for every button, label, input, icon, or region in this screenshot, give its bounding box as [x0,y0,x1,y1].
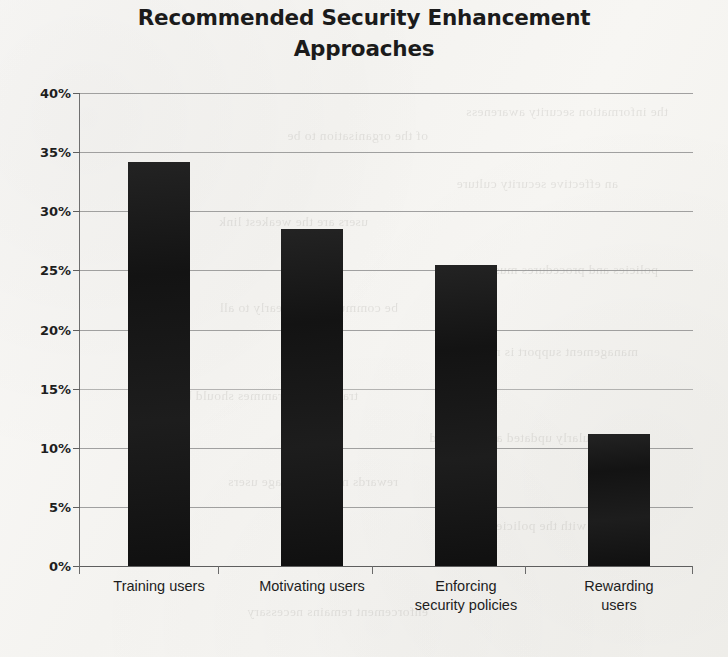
bar-enforcing-security-policies[interactable] [435,265,497,567]
bar-motivating-users[interactable] [281,229,343,566]
y-tick-label: 10% [40,440,71,455]
y-tick-mark [73,211,80,212]
y-tick-mark [73,389,80,390]
y-tick-label: 15% [40,381,71,396]
bar-chart: Recommended Security Enhancement Approac… [0,0,728,657]
x-axis-label-rewarding-users: Rewarding users [582,577,656,615]
x-tick-mark [692,566,693,574]
y-tick-mark [73,152,80,153]
x-tick-mark [218,566,219,574]
bar-rewarding-users[interactable] [588,434,650,566]
y-tick-mark [73,330,80,331]
bar-training-users[interactable] [128,162,190,567]
x-tick-mark [525,566,526,574]
plot-area: 40% 35% 30% 25% 20% 15% 10% 5% 0% [80,93,693,566]
x-axis-label-motivating-users: Motivating users [259,577,365,596]
x-axis-line [79,566,693,567]
y-tick-label: 5% [49,499,71,514]
y-tick-mark [73,270,80,271]
y-tick-mark [73,93,80,94]
gridline [80,93,693,94]
y-tick-label: 40% [40,86,71,101]
y-tick-label: 0% [49,559,71,574]
y-tick-mark [73,507,80,508]
x-axis-label-enforcing-security-policies: Enforcing security policies [415,577,517,615]
gridline [80,152,693,153]
chart-title: Recommended Security Enhancement Approac… [0,2,728,64]
y-tick-label: 35% [40,145,71,160]
x-tick-mark [372,566,373,574]
y-tick-label: 20% [40,322,71,337]
y-tick-label: 30% [40,204,71,219]
y-tick-mark [73,448,80,449]
x-axis-label-training-users: Training users [113,577,204,596]
y-tick-label: 25% [40,263,71,278]
x-tick-mark [79,566,80,574]
